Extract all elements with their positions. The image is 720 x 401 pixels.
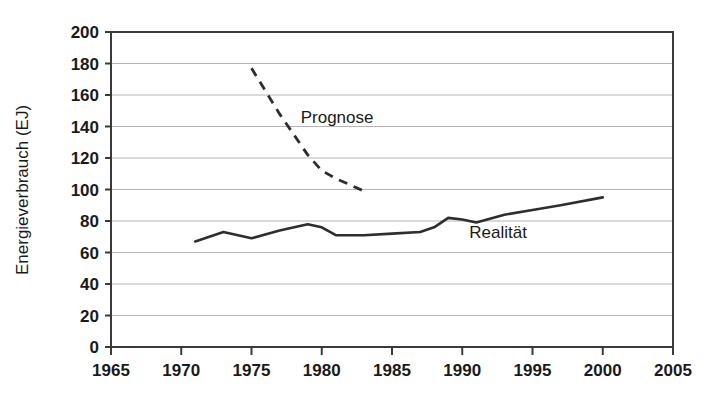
series-label-prognose: Prognose xyxy=(301,108,374,127)
y-tick-label-200: 200 xyxy=(71,23,99,42)
series-line-prognose xyxy=(252,68,364,191)
y-tick-label-140: 140 xyxy=(71,118,99,137)
series-label-realitt: Realität xyxy=(469,223,527,242)
x-tick-label-1995: 1995 xyxy=(514,361,552,380)
x-tick-label-1990: 1990 xyxy=(443,361,481,380)
series-group xyxy=(195,68,602,241)
x-tick-label-2000: 2000 xyxy=(584,361,622,380)
x-axis-ticks-group: 196519701975198019851990199520002005 xyxy=(92,347,692,380)
y-tick-label-20: 20 xyxy=(80,307,99,326)
y-tick-label-160: 160 xyxy=(71,86,99,105)
grid-lines-group xyxy=(111,64,673,316)
series-line-realitt xyxy=(195,197,602,241)
y-tick-label-120: 120 xyxy=(71,149,99,168)
y-tick-label-60: 60 xyxy=(80,244,99,263)
x-tick-label-1975: 1975 xyxy=(233,361,271,380)
x-tick-label-1965: 1965 xyxy=(92,361,130,380)
y-axis-ticks-group: 020406080100120140160180200 xyxy=(71,23,111,357)
y-tick-label-100: 100 xyxy=(71,181,99,200)
x-tick-label-1970: 1970 xyxy=(162,361,200,380)
energy-consumption-chart: 020406080100120140160180200 196519701975… xyxy=(0,0,720,401)
y-tick-label-80: 80 xyxy=(80,212,99,231)
y-tick-label-180: 180 xyxy=(71,55,99,74)
x-tick-label-1980: 1980 xyxy=(303,361,341,380)
y-axis-title: Energieverbrauch (EJ) xyxy=(13,105,32,275)
series-annotations-group: PrognoseRealität xyxy=(301,108,528,242)
chart-canvas: 020406080100120140160180200 196519701975… xyxy=(0,0,720,401)
y-tick-label-40: 40 xyxy=(80,275,99,294)
x-tick-label-1985: 1985 xyxy=(373,361,411,380)
y-tick-label-0: 0 xyxy=(90,338,99,357)
x-tick-label-2005: 2005 xyxy=(654,361,692,380)
